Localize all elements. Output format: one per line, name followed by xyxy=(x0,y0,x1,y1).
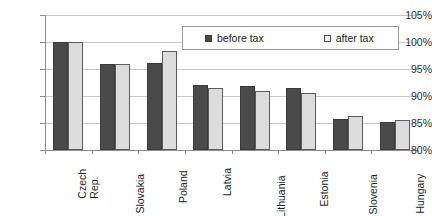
legend-label-before-tax: before tax xyxy=(217,32,264,44)
bar-after-tax xyxy=(68,42,83,150)
y-axis-tick-label: 80% xyxy=(392,145,432,155)
bar-after-tax xyxy=(115,64,130,150)
x-axis-tick-mark xyxy=(185,150,186,154)
x-axis-tick-mark xyxy=(92,150,93,154)
y-axis-tick-mark xyxy=(40,42,45,43)
bar-before-tax xyxy=(53,42,68,150)
bar-before-tax xyxy=(193,85,208,150)
bar-before-tax xyxy=(147,63,162,150)
y-axis-tick-label: 105% xyxy=(392,10,432,20)
chart-legend: before tax after tax xyxy=(182,26,399,50)
y-axis-tick-mark xyxy=(40,15,45,16)
bar-group xyxy=(92,15,139,150)
bar-chart: 105%100%95%90%85%80% CzechRep.SlovakiaPo… xyxy=(0,0,432,216)
bar-after-tax xyxy=(208,88,223,150)
legend-swatch-after-tax-icon xyxy=(324,35,331,42)
y-axis-line xyxy=(45,15,46,151)
y-axis-tick-mark xyxy=(40,96,45,97)
bar-after-tax xyxy=(162,51,177,150)
y-axis-tick-mark xyxy=(40,69,45,70)
bar-group xyxy=(45,15,92,150)
x-axis-tick-mark xyxy=(232,150,233,154)
x-axis-tick-mark xyxy=(45,150,46,154)
y-axis-tick-label: 90% xyxy=(392,91,432,101)
x-axis-tick-mark xyxy=(278,150,279,154)
legend-label-after-tax: after tax xyxy=(336,32,374,44)
legend-entry-before-tax: before tax xyxy=(205,32,264,44)
y-axis-tick-mark xyxy=(40,123,45,124)
bar-before-tax xyxy=(286,88,301,150)
bar-before-tax xyxy=(240,86,255,150)
bar-before-tax xyxy=(333,119,348,150)
bar-group xyxy=(138,15,185,150)
bar-after-tax xyxy=(255,91,270,150)
bar-after-tax xyxy=(301,93,316,150)
x-axis-label-latvia: Latvia xyxy=(222,168,234,196)
figure-caption xyxy=(0,208,432,216)
x-axis-tick-mark xyxy=(371,150,372,154)
x-axis-tick-mark xyxy=(138,150,139,154)
x-axis-tick-mark xyxy=(418,150,419,154)
bar-after-tax xyxy=(348,116,363,150)
y-axis-tick-label: 95% xyxy=(392,64,432,74)
legend-swatch-before-tax-icon xyxy=(205,35,212,42)
x-axis-tick-mark xyxy=(325,150,326,154)
x-axis-label-estonia: Estonia xyxy=(319,172,331,207)
x-axis-label-poland: Poland xyxy=(178,170,190,203)
legend-entry-after-tax: after tax xyxy=(324,32,374,44)
bar-before-tax xyxy=(100,64,115,150)
x-axis-label-czech-rep: CzechRep. xyxy=(77,169,100,199)
y-axis-tick-label: 85% xyxy=(392,118,432,128)
